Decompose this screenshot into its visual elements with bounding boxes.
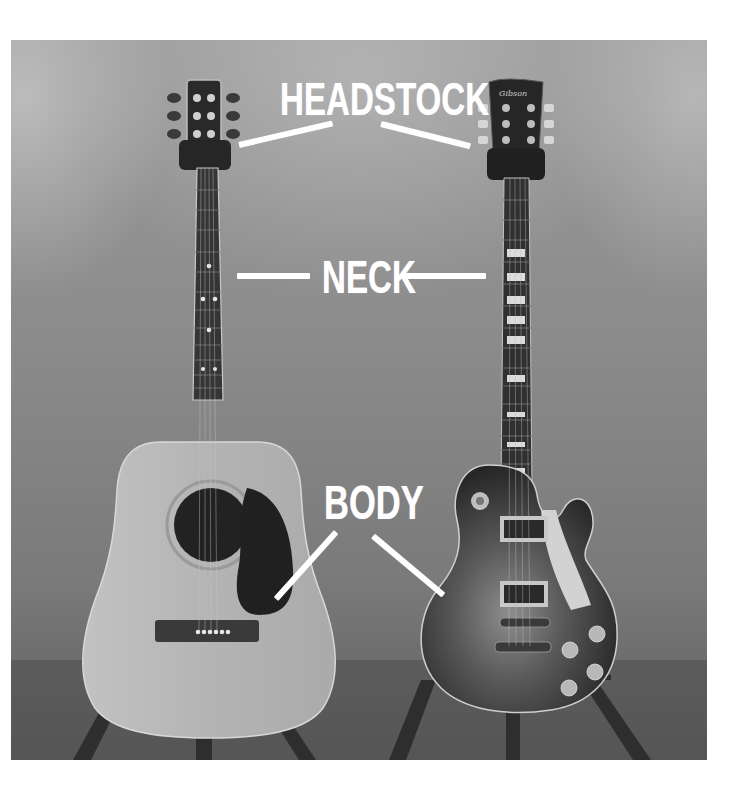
soundhole xyxy=(174,488,248,562)
guitar-photo: Gibson xyxy=(11,40,707,760)
bridge xyxy=(155,620,259,642)
cropped-text-fragment xyxy=(0,0,746,6)
body-label: BODY xyxy=(324,475,424,530)
neck-label: NECK xyxy=(322,250,416,304)
headstock-logo: Gibson xyxy=(499,89,527,98)
acoustic-neck xyxy=(193,168,223,400)
neck-pointer-right xyxy=(404,273,486,279)
tune-o-matic-bridge xyxy=(500,618,550,627)
acoustic-guitar xyxy=(83,80,335,738)
guitars-illustration: Gibson xyxy=(11,40,707,760)
neck-pointer-left xyxy=(237,273,310,279)
electric-guitar: Gibson xyxy=(421,79,617,712)
acoustic-body xyxy=(83,442,335,738)
headstock-label: HEADSTOCK xyxy=(280,72,489,126)
